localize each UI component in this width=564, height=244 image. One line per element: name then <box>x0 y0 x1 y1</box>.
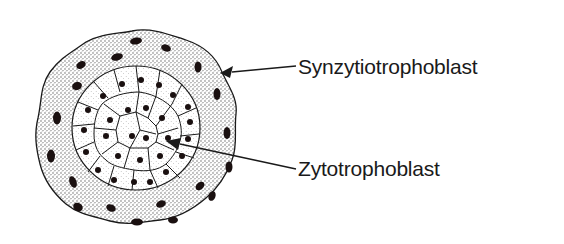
villus-diagram <box>0 0 564 244</box>
cytotrophoblast-core <box>72 66 200 190</box>
label-synzytiotrophoblast: Synzytiotrophoblast <box>298 55 477 79</box>
label-zytotrophoblast: Zytotrophoblast <box>298 157 440 181</box>
arrow-synzytiotrophoblast <box>220 66 296 78</box>
